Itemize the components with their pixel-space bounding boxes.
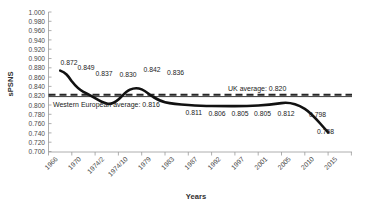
x-tick-label: 2015 [323,155,339,171]
point-label: 0.805 [232,110,249,117]
y-tick-label: 0.800 [28,102,45,109]
y-tick-label: 0.720 [28,139,45,146]
x-tick-label: 1979 [136,155,152,171]
x-axis-tick-labels: 1966 1970 1974/2 1974/10 1979 1983 1987 … [43,155,338,177]
x-tick-label: 1966 [43,155,59,171]
y-tick-label: 0.940 [28,37,45,44]
x-axis-title: Years [186,192,206,201]
x-tick-label: 1983 [160,155,176,171]
point-label: 0.805 [254,110,271,117]
x-tick-label: 1992 [206,155,222,171]
y-tick-label: 0.960 [28,27,45,34]
x-tick-label: 1974/10 [106,155,128,177]
x-tick-label: 2001 [253,155,269,171]
point-label: 0.842 [144,66,161,73]
x-tick-label: 1970 [67,155,83,171]
point-label: 0.806 [209,110,226,117]
x-tick-label: 1997 [230,155,246,171]
y-tick-label: 0.880 [28,64,45,71]
point-label: 0.798 [309,111,326,118]
y-axis-tick-labels: 1.000 0.980 0.960 0.940 0.920 0.900 0.88… [28,9,45,156]
point-label: 0.836 [167,69,184,76]
y-tick-label: 0.700 [28,148,45,155]
point-label: 0.849 [78,64,95,71]
y-tick-label: 0.920 [28,46,45,53]
x-axis-tickmarks [49,152,352,156]
x-tick-label: 1987 [183,155,199,171]
x-tick-label: 2010 [300,155,316,171]
point-label: 0.830 [120,71,137,78]
western-european-average-annotation: Western European average: 0.816 [53,101,160,109]
point-label: 0.837 [96,70,113,77]
point-label: 0.812 [278,110,295,117]
x-tick-label: 1974/2 [86,155,106,175]
y-tick-label: 0.900 [28,55,45,62]
y-tick-label: 0.760 [28,120,45,127]
y-tick-label: 1.000 [28,9,45,16]
point-label: 0.811 [186,109,203,116]
y-tick-label: 0.860 [28,74,45,81]
y-tick-label: 0.980 [28,18,45,25]
y-axis-tickmarks [49,12,52,152]
y-axis-title: sPSNS [6,72,15,97]
point-label: 0.758 [317,128,334,135]
uk-average-annotation: UK average: 0.820 [228,85,286,93]
chart-container: sPSNS 1.000 0.980 0.960 0.940 0.920 0.90… [0,0,365,212]
point-label: 0.872 [61,59,78,66]
line-chart: sPSNS 1.000 0.980 0.960 0.940 0.920 0.90… [0,0,365,212]
y-tick-label: 0.840 [28,83,45,90]
y-tick-label: 0.740 [28,130,45,137]
x-tick-label: 2005 [276,155,292,171]
y-tick-label: 0.820 [28,92,45,99]
y-tick-label: 0.780 [28,111,45,118]
